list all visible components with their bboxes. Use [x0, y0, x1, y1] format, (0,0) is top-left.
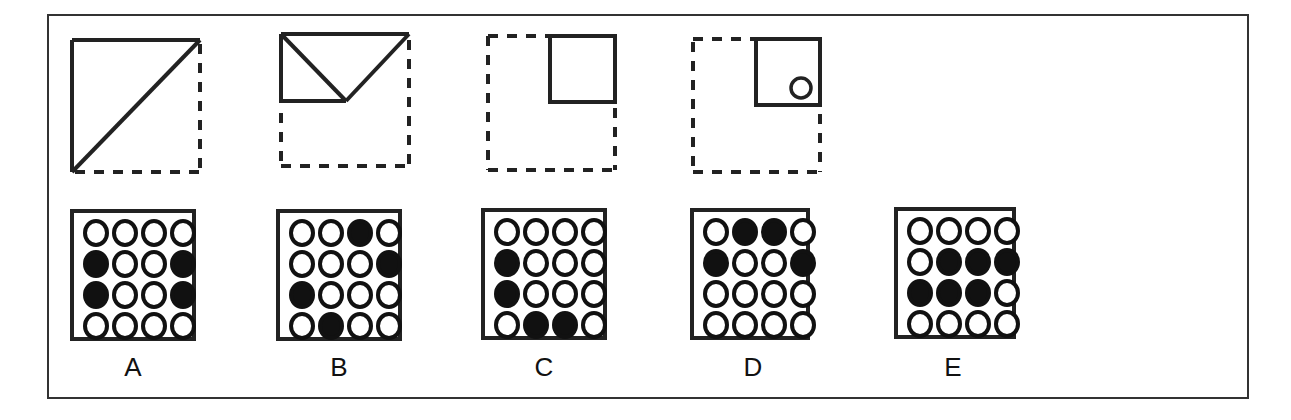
- empty-circle-icon: [376, 312, 402, 340]
- option-e-label: E: [890, 352, 1016, 383]
- empty-circle-icon: [761, 311, 787, 339]
- filled-circle-icon: [83, 250, 109, 278]
- filled-circle-icon: [83, 281, 109, 309]
- empty-circle-icon: [141, 312, 167, 340]
- filled-circle-icon: [703, 249, 729, 277]
- filled-circle-icon: [936, 279, 962, 307]
- option-e-grid[interactable]: [894, 207, 1016, 339]
- empty-circle-icon: [83, 219, 109, 247]
- filled-circle-icon: [907, 279, 933, 307]
- filled-circle-icon: [790, 249, 816, 277]
- empty-circle-icon: [703, 311, 729, 339]
- filled-circle-icon: [994, 248, 1020, 276]
- empty-circle-icon: [347, 250, 373, 278]
- dot-grid: [703, 218, 816, 339]
- option-b-label: B: [276, 352, 402, 383]
- empty-circle-icon: [83, 312, 109, 340]
- empty-circle-icon: [494, 311, 520, 339]
- filled-circle-icon: [732, 218, 758, 246]
- dot-grid: [83, 219, 196, 340]
- empty-circle-icon: [581, 249, 607, 277]
- empty-circle-icon: [936, 217, 962, 245]
- dot-grid: [494, 218, 607, 339]
- filled-circle-icon: [965, 248, 991, 276]
- option-a-grid[interactable]: [70, 209, 196, 341]
- dot-grid: [907, 217, 1020, 338]
- empty-circle-icon: [347, 312, 373, 340]
- empty-circle-icon: [761, 280, 787, 308]
- empty-circle-icon: [703, 280, 729, 308]
- empty-circle-icon: [318, 281, 344, 309]
- sequence-figure-1: [65, 30, 210, 180]
- option-a-label: A: [70, 352, 196, 383]
- empty-circle-icon: [347, 281, 373, 309]
- filled-circle-icon: [170, 281, 196, 309]
- empty-circle-icon: [523, 280, 549, 308]
- empty-circle-icon: [289, 250, 315, 278]
- empty-circle-icon: [523, 218, 549, 246]
- empty-circle-icon: [761, 249, 787, 277]
- option-c-grid[interactable]: [481, 208, 607, 340]
- option-c-label: C: [481, 352, 607, 383]
- empty-circle-icon: [494, 218, 520, 246]
- empty-circle-icon: [907, 310, 933, 338]
- empty-circle-icon: [112, 219, 138, 247]
- empty-circle-icon: [732, 311, 758, 339]
- empty-circle-icon: [907, 248, 933, 276]
- filled-circle-icon: [936, 248, 962, 276]
- empty-circle-icon: [523, 249, 549, 277]
- empty-circle-icon: [907, 217, 933, 245]
- empty-circle-icon: [376, 281, 402, 309]
- option-d-label: D: [690, 352, 816, 383]
- empty-circle-icon: [318, 250, 344, 278]
- empty-circle-icon: [552, 249, 578, 277]
- empty-circle-icon: [289, 312, 315, 340]
- empty-circle-icon: [318, 219, 344, 247]
- empty-circle-icon: [112, 250, 138, 278]
- empty-circle-icon: [732, 280, 758, 308]
- sequence-figure-2: [272, 28, 417, 173]
- empty-circle-icon: [994, 217, 1020, 245]
- empty-circle-icon: [994, 279, 1020, 307]
- filled-circle-icon: [376, 250, 402, 278]
- sequence-figure-4: [685, 30, 830, 180]
- empty-circle-icon: [170, 219, 196, 247]
- empty-circle-icon: [790, 218, 816, 246]
- empty-circle-icon: [552, 218, 578, 246]
- empty-circle-icon: [581, 218, 607, 246]
- empty-circle-icon: [552, 280, 578, 308]
- empty-circle-icon: [376, 219, 402, 247]
- filled-circle-icon: [289, 281, 315, 309]
- empty-circle-icon: [703, 218, 729, 246]
- filled-circle-icon: [965, 279, 991, 307]
- empty-circle-icon: [289, 219, 315, 247]
- empty-circle-icon: [581, 311, 607, 339]
- empty-circle-icon: [581, 280, 607, 308]
- empty-circle-icon: [965, 217, 991, 245]
- empty-circle-icon: [170, 312, 196, 340]
- empty-circle-icon: [112, 312, 138, 340]
- empty-circle-icon: [790, 280, 816, 308]
- empty-circle-icon: [790, 311, 816, 339]
- empty-circle-icon: [965, 310, 991, 338]
- empty-circle-icon: [141, 250, 167, 278]
- empty-circle-icon: [936, 310, 962, 338]
- filled-circle-icon: [523, 311, 549, 339]
- filled-circle-icon: [347, 219, 373, 247]
- empty-circle-icon: [732, 249, 758, 277]
- option-b-grid[interactable]: [276, 209, 402, 341]
- filled-circle-icon: [494, 280, 520, 308]
- filled-circle-icon: [761, 218, 787, 246]
- filled-circle-icon: [552, 311, 578, 339]
- empty-circle-icon: [994, 310, 1020, 338]
- dot-grid: [289, 219, 402, 340]
- filled-circle-icon: [170, 250, 196, 278]
- puzzle-frame: [47, 14, 1249, 399]
- empty-circle-icon: [141, 281, 167, 309]
- sequence-figure-3: [480, 28, 625, 178]
- empty-circle-icon: [112, 281, 138, 309]
- option-d-grid[interactable]: [690, 208, 810, 340]
- empty-circle-icon: [141, 219, 167, 247]
- filled-circle-icon: [318, 312, 344, 340]
- filled-circle-icon: [494, 249, 520, 277]
